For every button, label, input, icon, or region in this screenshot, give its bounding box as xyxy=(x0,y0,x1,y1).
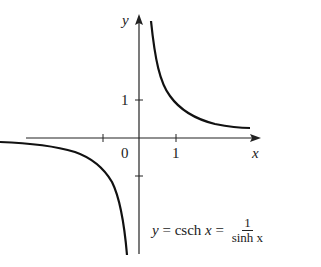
curve-positive-branch xyxy=(151,21,250,128)
y-tick-label-1: 1 xyxy=(121,93,129,108)
fraction-numerator: 1 xyxy=(242,216,253,231)
fraction-denominator: sinh x xyxy=(232,231,263,245)
x-axis-label: x xyxy=(252,146,259,161)
equation-csch: = csch xyxy=(159,222,205,239)
equation-annotation: y = csch x = 1 sinh x xyxy=(152,216,263,244)
equation-eq2: = xyxy=(212,222,228,239)
x-tick-label-1: 1 xyxy=(172,146,180,161)
equation-fraction: 1 sinh x xyxy=(232,216,263,244)
curve-negative-branch xyxy=(0,142,127,255)
equation-lhs: y xyxy=(152,222,159,239)
origin-label: 0 xyxy=(121,146,129,161)
equation-var: x xyxy=(205,222,212,239)
y-axis-label: y xyxy=(122,13,129,28)
